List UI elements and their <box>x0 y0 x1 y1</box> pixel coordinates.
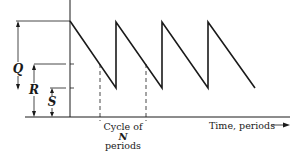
inventory-diagram: Q R S Cycle of N periods Time, periods <box>0 0 308 158</box>
q-label: Q <box>13 62 24 76</box>
s-arrow-up-icon <box>50 88 54 93</box>
q-arrow-down-icon <box>16 84 20 90</box>
cycle-caption-line3: periods <box>105 140 141 151</box>
r-arrow-up-icon <box>32 64 36 70</box>
x-axis-label: Time, periods <box>209 120 275 131</box>
r-arrow-down-icon <box>32 111 36 117</box>
s-label: S <box>48 95 57 109</box>
q-arrow-up-icon <box>16 21 20 27</box>
x-axis-arrow-icon <box>283 123 290 128</box>
s-arrow-down-icon <box>50 112 54 117</box>
r-label: R <box>28 83 39 97</box>
inventory-sawtooth-line <box>70 21 255 88</box>
